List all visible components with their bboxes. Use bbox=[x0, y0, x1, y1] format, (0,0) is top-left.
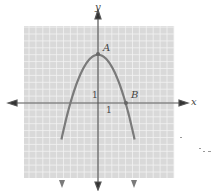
scan-artifact bbox=[199, 148, 201, 149]
point-b-label: B bbox=[131, 90, 138, 100]
curve-left-arrow-icon bbox=[59, 180, 65, 188]
curve-right-arrow-icon bbox=[131, 180, 137, 188]
y-axis-label: y bbox=[95, 2, 101, 12]
x-unit-label: 1 bbox=[106, 106, 112, 115]
grid-background bbox=[24, 26, 174, 178]
scan-artifact bbox=[208, 151, 211, 152]
scan-artifact bbox=[203, 151, 205, 152]
point-b bbox=[124, 101, 128, 105]
scan-artifact bbox=[180, 137, 182, 138]
point-a bbox=[96, 52, 100, 56]
coordinate-plane bbox=[0, 0, 216, 191]
x-axis-left-arrow-icon bbox=[8, 100, 17, 106]
y-axis-bottom-arrow-icon bbox=[95, 182, 101, 190]
x-axis-label: x bbox=[191, 97, 197, 107]
x-axis-right-arrow-icon bbox=[179, 100, 188, 106]
point-a-label: A bbox=[103, 43, 110, 53]
y-unit-label: 1 bbox=[92, 91, 98, 100]
